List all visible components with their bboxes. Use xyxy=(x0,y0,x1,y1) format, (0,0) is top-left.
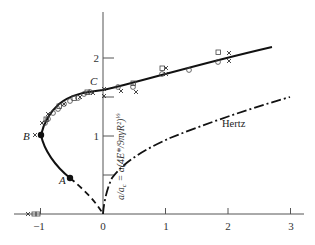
jkr-curve-b-to-a xyxy=(41,135,70,178)
data-crosses xyxy=(26,51,231,216)
point-b-marker xyxy=(38,132,44,138)
data-squares xyxy=(32,50,220,216)
y-tick-label: 1 xyxy=(94,130,100,142)
label-c: C xyxy=(90,75,98,87)
point-a-marker xyxy=(67,175,73,181)
x-tick-label: 2 xyxy=(225,220,231,232)
y-tick-label: 2 xyxy=(94,52,100,64)
label-b: B xyxy=(23,130,30,142)
x-tick-label: −1 xyxy=(33,220,45,232)
jkr-curve-unstable xyxy=(70,178,103,214)
y-axis-label: a/ac = a(4E*/9πγR²)⅓ xyxy=(114,113,128,200)
x-tick-label: 0 xyxy=(100,220,106,232)
hertz-curve xyxy=(103,97,290,214)
chart-figure: −1 0 1 2 3 1 2 a/ac = a(4E*/9πγR²)⅓ A B … xyxy=(0,0,315,245)
label-hertz: Hertz xyxy=(222,118,246,129)
data-circles xyxy=(43,60,221,126)
x-tick-label: 3 xyxy=(288,220,294,232)
label-a: A xyxy=(58,174,66,186)
x-ticks xyxy=(41,208,291,214)
x-tick-label: 1 xyxy=(163,220,169,232)
y-ticks xyxy=(103,58,114,175)
